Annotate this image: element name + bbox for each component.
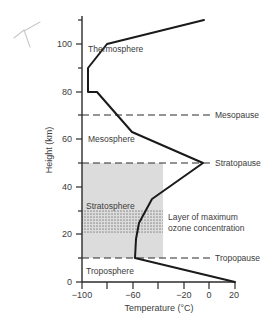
layer-label-mesosphere: Mesosphere [88, 134, 135, 144]
x-tick-label-neg100: −100 [72, 290, 92, 300]
layer-label-troposphere: Troposphere [86, 266, 134, 276]
atmosphere-temperature-chart: 0 20 40 60 80 100 −100 −60 −20 0 20 Temp… [0, 0, 279, 313]
ozone-layer-band [82, 210, 163, 234]
y-tick-label-0: 0 [67, 277, 72, 287]
y-tick-label-60: 60 [62, 134, 72, 144]
x-tick-label-0: 0 [206, 290, 211, 300]
y-tick-label-20: 20 [62, 229, 72, 239]
layer-label-thermosphere: Thermosphere [88, 44, 144, 54]
pause-label-stratopause: Stratopause [215, 158, 261, 168]
ozone-note-line2: ozone concentration [168, 223, 245, 233]
y-tick-label-100: 100 [57, 39, 72, 49]
y-tick-label-80: 80 [62, 87, 72, 97]
x-tick-label-20: 20 [229, 290, 239, 300]
ozone-note-line1: Layer of maximum [168, 212, 238, 222]
y-axis-title: Height (km) [44, 127, 54, 174]
x-axis-title: Temperature (°C) [124, 303, 193, 313]
pause-label-mesopause: Mesopause [215, 110, 259, 120]
chart-canvas: 0 20 40 60 80 100 −100 −60 −20 0 20 Temp… [0, 0, 279, 313]
y-tick-label-40: 40 [62, 182, 72, 192]
pause-label-tropopause: Tropopause [215, 253, 260, 263]
x-tick-label-neg60: −60 [125, 290, 140, 300]
x-tick-label-neg20: −20 [176, 290, 191, 300]
layer-label-stratosphere: Stratosphere [86, 201, 135, 211]
